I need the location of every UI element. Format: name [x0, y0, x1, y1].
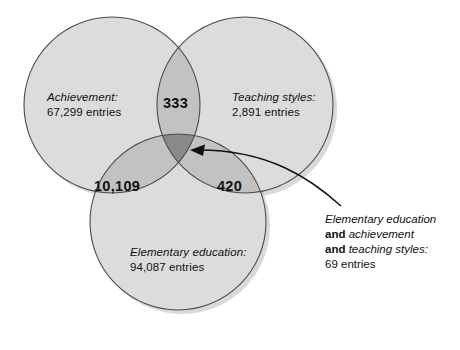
label-elementary-education-count: 94,087 entries	[130, 260, 247, 275]
label-teaching-styles-count: 2,891 entries	[232, 105, 316, 120]
label-elementary-education: Elementary education: 94,087 entries	[130, 245, 247, 274]
callout-line-3-text: teaching styles:	[345, 243, 427, 255]
callout-line-4: 69 entries	[325, 257, 436, 272]
label-teaching-styles: Teaching styles: 2,891 entries	[232, 90, 316, 119]
callout-line-2: and achievement	[325, 227, 436, 242]
callout-triple-intersection: Elementary education and achievement and…	[325, 212, 436, 272]
callout-line-3: and teaching styles:	[325, 242, 436, 257]
callout-line-2-and: and	[325, 228, 345, 240]
label-achievement-count: 67,299 entries	[47, 105, 121, 120]
callout-line-3-and: and	[325, 243, 345, 255]
value-achievement-teaching: 333	[163, 95, 188, 111]
value-teaching-elementary: 420	[217, 178, 242, 194]
callout-line-1: Elementary education	[325, 212, 436, 227]
value-achievement-elementary: 10,109	[94, 178, 140, 194]
label-achievement-name: Achievement:	[47, 90, 121, 105]
callout-line-2-text: achievement	[345, 228, 413, 240]
label-elementary-education-name: Elementary education:	[130, 245, 247, 260]
label-achievement: Achievement: 67,299 entries	[47, 90, 121, 119]
venn-circles-graphic	[0, 0, 460, 350]
label-teaching-styles-name: Teaching styles:	[232, 90, 316, 105]
venn-diagram: Achievement: 67,299 entries Teaching sty…	[0, 0, 460, 350]
